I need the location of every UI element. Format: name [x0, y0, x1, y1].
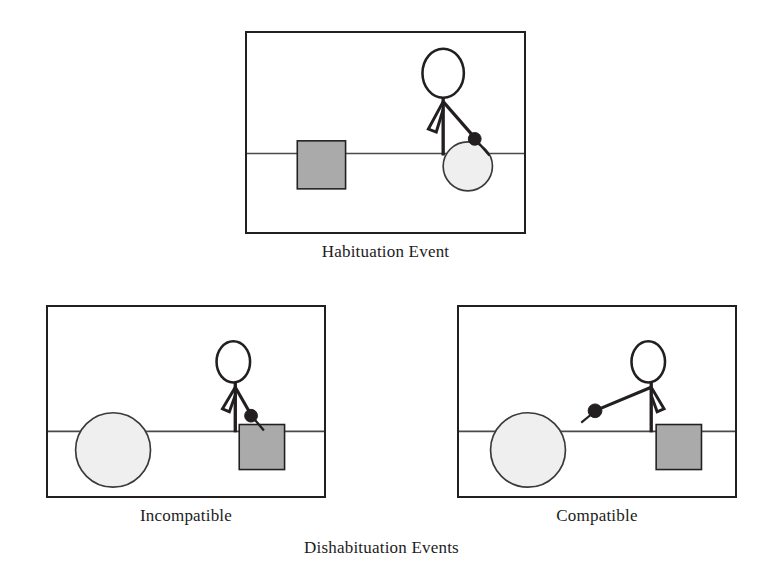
stick-figure — [581, 341, 665, 432]
stick-figure — [422, 49, 489, 156]
light-ball — [491, 413, 566, 487]
caption-dishabituation-events: Dishabituation Events — [0, 538, 763, 558]
compatible-scene — [459, 307, 735, 496]
incompatible-scene — [48, 307, 324, 496]
panel-incompatible — [46, 305, 326, 498]
caption-habituation: Habituation Event — [245, 242, 526, 262]
light-ball — [76, 413, 151, 487]
habituation-scene — [247, 33, 524, 232]
figure-head — [632, 341, 666, 382]
figure-head — [217, 341, 251, 382]
figure-bent-arm — [651, 387, 664, 411]
gray-square — [239, 425, 284, 470]
figure-bent-arm — [428, 102, 443, 132]
figure-bent-arm — [222, 387, 235, 411]
figure-extended-arm — [597, 387, 651, 410]
gray-square — [297, 141, 345, 189]
gray-square — [656, 425, 701, 470]
caption-incompatible: Incompatible — [46, 506, 326, 526]
panel-compatible — [457, 305, 737, 498]
panel-habituation — [245, 31, 526, 234]
stick-figure — [217, 341, 264, 432]
figure-head — [422, 49, 463, 98]
figure-hand-contact-stroke — [581, 414, 592, 423]
caption-compatible: Compatible — [457, 506, 737, 526]
illustration-figure: Habituation Event Incompatible Compatibl… — [0, 0, 763, 572]
